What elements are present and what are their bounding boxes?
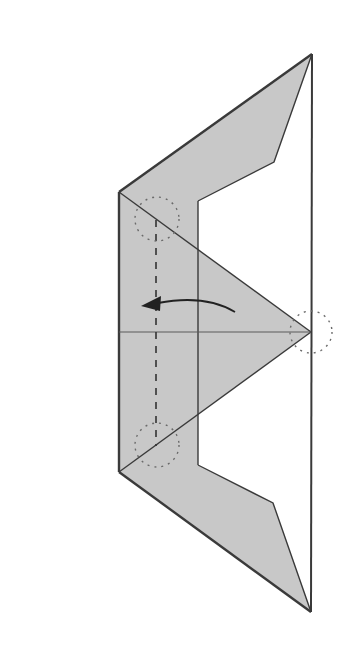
diagram-canvas bbox=[0, 0, 361, 651]
right-edge bbox=[311, 54, 312, 612]
origami-diagram bbox=[0, 0, 361, 651]
